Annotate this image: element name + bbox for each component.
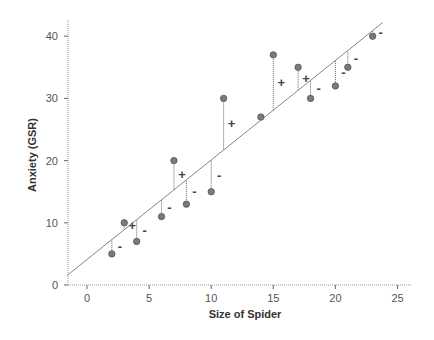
scatter-chart: 0102030400510152025 -+--+--+++---- Size … bbox=[0, 0, 434, 340]
residual-lines bbox=[112, 31, 373, 254]
x-tick-label: 0 bbox=[84, 292, 90, 304]
residual-sign: - bbox=[316, 81, 320, 96]
residual-sign: - bbox=[167, 200, 171, 215]
data-point bbox=[158, 213, 164, 219]
x-tick-label: 10 bbox=[205, 292, 217, 304]
data-point bbox=[121, 220, 127, 226]
residual-sign: - bbox=[192, 184, 196, 199]
x-tick-label: 5 bbox=[146, 292, 152, 304]
residual-sign: - bbox=[217, 168, 221, 183]
data-point bbox=[270, 52, 276, 58]
regression-line bbox=[67, 23, 382, 276]
y-tick-label: 40 bbox=[46, 30, 58, 42]
y-tick-label: 0 bbox=[52, 279, 58, 291]
data-point bbox=[220, 95, 226, 101]
data-point bbox=[307, 95, 313, 101]
x-tick-label: 20 bbox=[329, 292, 341, 304]
residual-sign: - bbox=[118, 239, 122, 254]
residual-sign: + bbox=[228, 116, 236, 131]
y-tick-label: 20 bbox=[46, 155, 58, 167]
data-point bbox=[208, 189, 214, 195]
regression-line-path bbox=[67, 23, 382, 276]
x-axis-label: Size of Spider bbox=[209, 308, 282, 320]
residual-sign: + bbox=[128, 218, 136, 233]
residual-sign: - bbox=[378, 25, 382, 40]
data-points bbox=[109, 33, 376, 257]
residual-sign: - bbox=[354, 51, 358, 66]
residual-sign: + bbox=[278, 75, 286, 90]
data-point bbox=[133, 238, 139, 244]
data-point bbox=[369, 33, 375, 39]
residual-sign: + bbox=[302, 71, 310, 86]
data-point bbox=[258, 114, 264, 120]
data-point bbox=[345, 64, 351, 70]
data-point bbox=[109, 251, 115, 257]
residual-sign: - bbox=[143, 223, 147, 238]
y-tick-label: 30 bbox=[46, 92, 58, 104]
data-point bbox=[171, 157, 177, 163]
x-tick-label: 15 bbox=[267, 292, 279, 304]
residual-sign: + bbox=[178, 167, 186, 182]
residual-sign: - bbox=[341, 65, 345, 80]
data-point bbox=[332, 83, 338, 89]
data-point bbox=[183, 201, 189, 207]
x-tick-label: 25 bbox=[391, 292, 403, 304]
data-point bbox=[295, 64, 301, 70]
y-tick-label: 10 bbox=[46, 217, 58, 229]
residual-signs: -+--+--+++---- bbox=[118, 25, 383, 253]
y-axis-label: Anxiety (GSR) bbox=[26, 118, 38, 192]
